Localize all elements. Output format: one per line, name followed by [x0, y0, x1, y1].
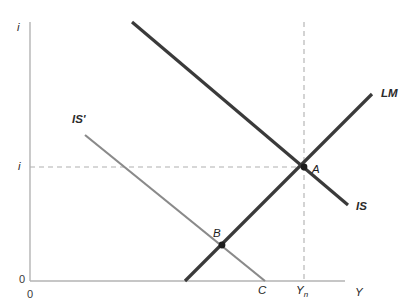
point-b-label: B [213, 228, 221, 240]
x-axis-label: Y [355, 287, 363, 299]
is-curve-label: IS [356, 201, 367, 213]
lm-curve [185, 94, 372, 281]
is-lm-figure: i Y 0 0 i C Yn LM IS IS' A B [0, 0, 419, 306]
y-tick-label-interest: i [18, 161, 21, 173]
point-b-marker [219, 242, 226, 249]
is-curve [132, 22, 348, 205]
is-lm-chart-canvas [0, 0, 419, 306]
origin-label-x: 0 [27, 289, 33, 300]
origin-label-y: 0 [19, 274, 25, 285]
point-a-marker [301, 164, 308, 171]
y-axis-label: i [17, 22, 20, 34]
x-tick-label-c: C [258, 285, 266, 297]
x-tick-label-natural-output: Yn [296, 285, 308, 299]
lm-curve-label: LM [381, 88, 398, 100]
is-prime-curve-label: IS' [72, 114, 86, 126]
x-tick-label-natural-output-subscript: n [304, 290, 308, 299]
x-tick-label-natural-output-base: Y [296, 284, 304, 296]
is-prime-curve [85, 135, 265, 281]
point-a-label: A [312, 164, 320, 176]
